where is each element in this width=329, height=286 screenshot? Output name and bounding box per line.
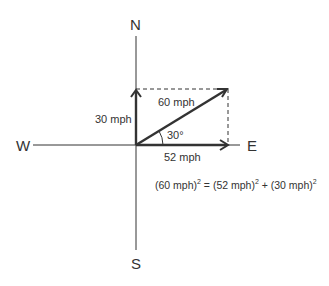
pythagorean-equation: (60 mph)2 = (52 mph)2 + (30 mph)2 [155, 178, 317, 191]
eq-lhs: (60 mph) [155, 179, 197, 191]
angle-label: 30° [167, 129, 184, 141]
eq-rhs1: (52 mph) [213, 179, 255, 191]
north-label: N [130, 16, 141, 33]
east-label: E [247, 137, 257, 154]
eq-equals: = [201, 179, 213, 191]
north-component-label: 30 mph [95, 113, 132, 125]
angle-arc [159, 131, 163, 145]
east-component-label: 52 mph [164, 151, 201, 163]
south-label: S [131, 255, 141, 272]
eq-exp-3: 2 [313, 178, 317, 185]
west-label: W [16, 137, 30, 154]
eq-rhs2: (30 mph) [271, 179, 313, 191]
vector-diagram [0, 0, 329, 286]
eq-plus: + [259, 179, 271, 191]
resultant-label: 60 mph [158, 96, 195, 108]
